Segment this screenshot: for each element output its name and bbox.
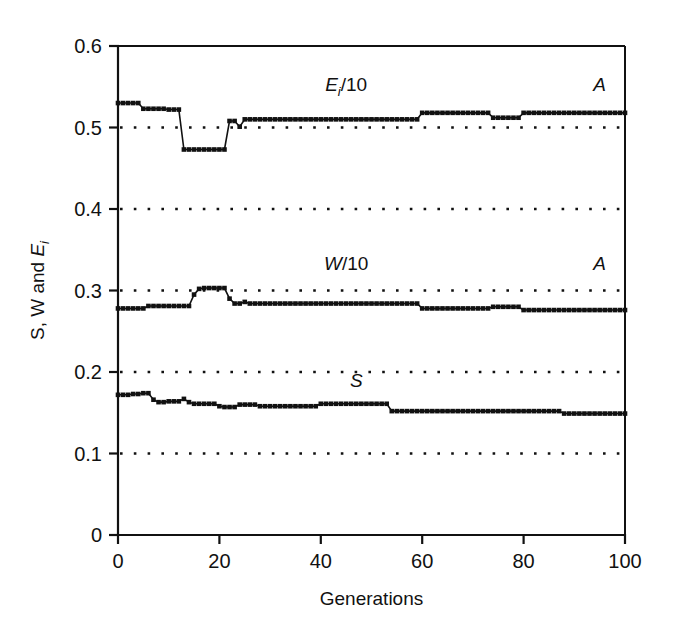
data-point-marker: [151, 106, 156, 111]
data-point-marker: [618, 308, 623, 313]
data-point-marker: [192, 147, 197, 152]
data-point-marker: [293, 301, 298, 306]
data-point-marker: [263, 404, 268, 409]
data-point-marker: [526, 308, 531, 313]
data-point-marker: [466, 306, 471, 311]
data-point-marker: [602, 411, 607, 416]
data-point-marker: [415, 117, 420, 122]
data-point-marker: [491, 305, 496, 310]
data-point-marker: [481, 306, 486, 311]
data-point-marker: [253, 301, 258, 306]
data-point-marker: [450, 409, 455, 414]
data-point-marker: [273, 117, 278, 122]
data-point-marker: [166, 304, 171, 309]
data-point-marker: [146, 106, 151, 111]
data-point-marker: [212, 286, 217, 291]
data-point-marker: [182, 147, 187, 152]
data-point-marker: [217, 286, 222, 291]
data-point-marker: [476, 409, 481, 414]
data-point-marker: [268, 404, 273, 409]
x-axis-title: Generations: [320, 588, 424, 609]
annotation-label: A: [592, 74, 606, 95]
data-point-marker: [197, 401, 202, 406]
data-point-marker: [547, 111, 552, 116]
data-point-marker: [283, 117, 288, 122]
data-point-marker: [207, 286, 212, 291]
data-point-marker: [379, 301, 384, 306]
data-point-marker: [364, 401, 369, 406]
data-point-marker: [460, 306, 465, 311]
data-point-marker: [471, 306, 476, 311]
data-point-marker: [293, 117, 298, 122]
data-point-marker: [542, 111, 547, 116]
x-tick-label: 100: [608, 550, 641, 572]
data-point-marker: [506, 409, 511, 414]
data-point-marker: [349, 401, 354, 406]
data-point-marker: [308, 301, 313, 306]
data-point-marker: [283, 404, 288, 409]
data-point-marker: [410, 409, 415, 414]
data-point-marker: [222, 147, 227, 152]
data-point-marker: [202, 286, 207, 291]
data-point-marker: [202, 401, 207, 406]
data-point-marker: [166, 399, 171, 404]
data-point-marker: [521, 409, 526, 414]
data-point-marker: [415, 409, 420, 414]
data-point-marker: [217, 147, 222, 152]
data-point-marker: [273, 404, 278, 409]
data-point-marker: [263, 117, 268, 122]
data-point-marker: [161, 304, 166, 309]
data-point-marker: [466, 111, 471, 116]
y-tick-label: 0.3: [74, 280, 102, 302]
data-point-marker: [471, 111, 476, 116]
data-point-marker: [212, 147, 217, 152]
data-point-marker: [557, 409, 562, 414]
data-point-marker: [395, 117, 400, 122]
data-point-marker: [526, 409, 531, 414]
data-point-marker: [460, 409, 465, 414]
data-point-marker: [466, 409, 471, 414]
data-point-marker: [577, 411, 582, 416]
data-point-marker: [344, 117, 349, 122]
data-point-marker: [298, 117, 303, 122]
y-tick-label: 0: [91, 524, 102, 546]
data-point-marker: [607, 308, 612, 313]
data-point-marker: [531, 409, 536, 414]
data-point-marker: [354, 401, 359, 406]
data-point-marker: [136, 392, 141, 397]
x-tick-label: 60: [411, 550, 433, 572]
data-point-marker: [587, 411, 592, 416]
data-point-marker: [531, 308, 536, 313]
data-point-marker: [288, 301, 293, 306]
data-point-marker: [126, 101, 131, 106]
data-point-marker: [131, 101, 136, 106]
data-point-marker: [531, 111, 536, 116]
data-point-marker: [400, 409, 405, 414]
data-point-marker: [283, 301, 288, 306]
data-point-marker: [334, 301, 339, 306]
data-point-marker: [537, 409, 542, 414]
data-point-marker: [131, 306, 136, 311]
data-point-marker: [425, 111, 430, 116]
data-point-marker: [486, 111, 491, 116]
data-point-marker: [197, 147, 202, 152]
data-point-marker: [141, 306, 146, 311]
data-point-marker: [587, 111, 592, 116]
data-point-marker: [192, 401, 197, 406]
data-point-marker: [136, 306, 141, 311]
data-point-marker: [248, 117, 253, 122]
data-point-marker: [313, 117, 318, 122]
data-point-marker: [521, 308, 526, 313]
data-point-marker: [577, 111, 582, 116]
data-point-marker: [187, 147, 192, 152]
data-point-marker: [364, 117, 369, 122]
data-point-marker: [197, 287, 202, 292]
data-point-marker: [460, 111, 465, 116]
data-point-marker: [400, 301, 405, 306]
data-point-marker: [547, 409, 552, 414]
data-point-marker: [445, 111, 450, 116]
data-point-marker: [389, 117, 394, 122]
data-point-marker: [308, 404, 313, 409]
data-point-marker: [207, 147, 212, 152]
data-point-marker: [516, 409, 521, 414]
